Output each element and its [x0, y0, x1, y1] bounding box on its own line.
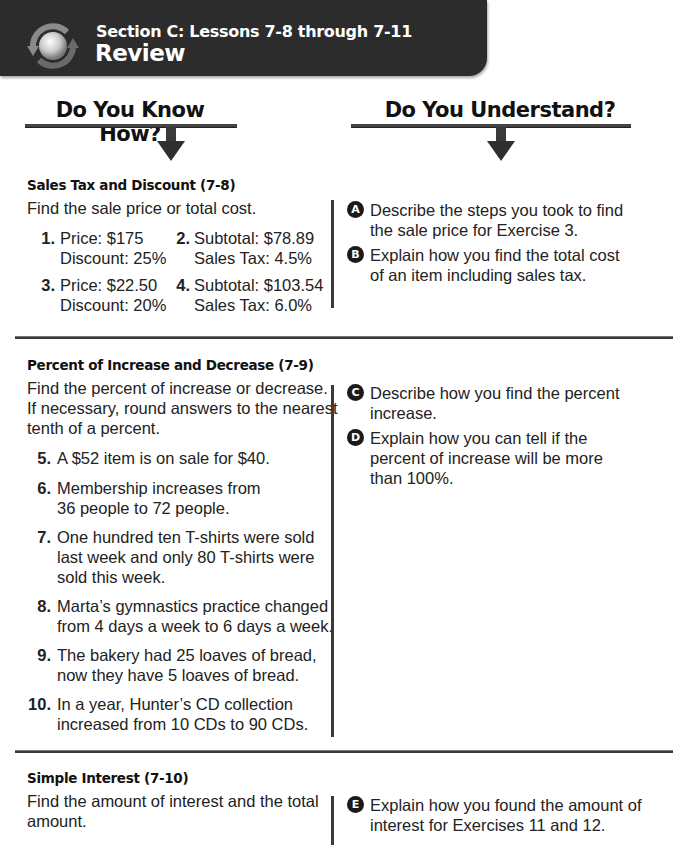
letter-badge-d: D — [347, 429, 364, 446]
instructions: tenth of a percent. — [27, 418, 160, 438]
column-divider — [331, 796, 334, 845]
section-divider — [15, 750, 673, 753]
down-arrow-icon — [157, 127, 185, 161]
letter-badge-c: C — [347, 384, 364, 401]
column-divider — [331, 200, 334, 308]
section-subtitle: Section C: Lessons 7-8 through 7-11 — [96, 22, 412, 41]
letter-badge-a: A — [347, 201, 364, 218]
section-divider — [15, 336, 673, 339]
down-arrow-icon — [487, 127, 515, 161]
column-divider — [331, 385, 334, 737]
instructions: Find the sale price or total cost. — [27, 198, 256, 218]
instructions: If necessary, round answers to the neare… — [27, 398, 338, 418]
letter-badge-e: E — [347, 796, 364, 813]
instructions: Find the percent of increase or decrease… — [27, 378, 328, 398]
section-title-simple-interest: Simple Interest (7-10) — [27, 770, 188, 786]
page-title: Review — [95, 40, 185, 66]
heading-underline-left — [25, 124, 237, 128]
review-cycle-icon — [27, 22, 79, 70]
column-heading-know-how: Do You Know How? — [30, 98, 230, 146]
letter-badge-b: B — [347, 246, 364, 263]
instructions: Find the amount of interest and the tota… — [27, 791, 319, 811]
column-heading-understand: Do You Understand? — [380, 98, 620, 122]
section-title-percent-change: Percent of Increase and Decrease (7-9) — [27, 357, 314, 373]
instructions: amount. — [27, 811, 87, 831]
section-review-banner: Section C: Lessons 7-8 through 7-11 Revi… — [0, 0, 487, 76]
section-title-sales-tax: Sales Tax and Discount (7-8) — [27, 177, 235, 193]
